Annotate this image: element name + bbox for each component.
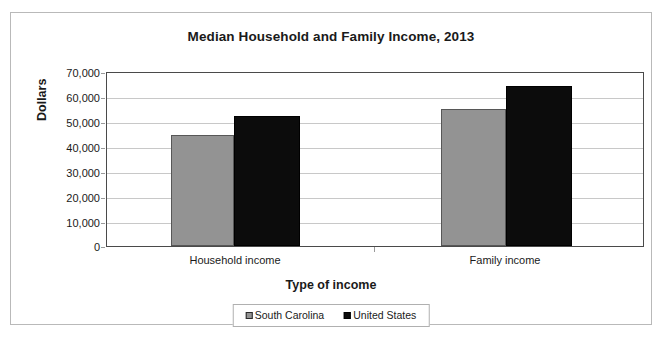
y-tick-label-40000: 40,000 (66, 142, 100, 154)
legend-item-south-carolina: South Carolina (246, 309, 324, 321)
chart-title: Median Household and Family Income, 2013 (11, 29, 651, 44)
x-axis-tick-mid (374, 247, 375, 252)
tick-mark-50000 (101, 123, 105, 124)
legend-swatch-icon-south-carolina (246, 312, 253, 319)
bar-family-south-carolina (441, 109, 506, 246)
tick-mark-30000 (101, 173, 105, 174)
y-tick-label-60000: 60,000 (66, 92, 100, 104)
legend-label-south-carolina: South Carolina (255, 309, 324, 321)
x-tick-label-family-income: Family income (470, 254, 541, 266)
gridline-0: 0 (107, 247, 643, 248)
y-tick-label-20000: 20,000 (66, 192, 100, 204)
y-tick-label-70000: 70,000 (66, 67, 100, 79)
tick-mark-60000 (101, 98, 105, 99)
y-tick-label-30000: 30,000 (66, 167, 100, 179)
y-tick-label-50000: 50,000 (66, 117, 100, 129)
y-tick-label-0: 0 (94, 241, 100, 253)
legend-label-united-states: United States (353, 309, 416, 321)
scan-artifact (27, 0, 49, 8)
x-axis-title: Type of income (11, 278, 651, 292)
tick-mark-0 (101, 247, 105, 248)
y-axis-title: Dollars (35, 79, 49, 121)
x-tick-label-household-income: Household income (189, 254, 280, 266)
bar-household-south-carolina (171, 135, 234, 246)
tick-mark-10000 (101, 223, 105, 224)
tick-mark-20000 (101, 198, 105, 199)
chart-legend: South Carolina United States (233, 304, 430, 327)
legend-swatch-icon-united-states (344, 312, 351, 319)
plot-area: 70,000 60,000 50,000 40,000 30,000 20,00… (106, 72, 644, 247)
chart-container: Median Household and Family Income, 2013… (10, 12, 652, 325)
tick-mark-40000 (101, 148, 105, 149)
tick-mark-70000 (101, 73, 105, 74)
legend-item-united-states: United States (344, 309, 416, 321)
y-tick-label-10000: 10,000 (66, 217, 100, 229)
gridline-70000: 70,000 (107, 73, 643, 74)
bar-family-united-states (506, 86, 572, 246)
bar-household-united-states (234, 116, 300, 246)
